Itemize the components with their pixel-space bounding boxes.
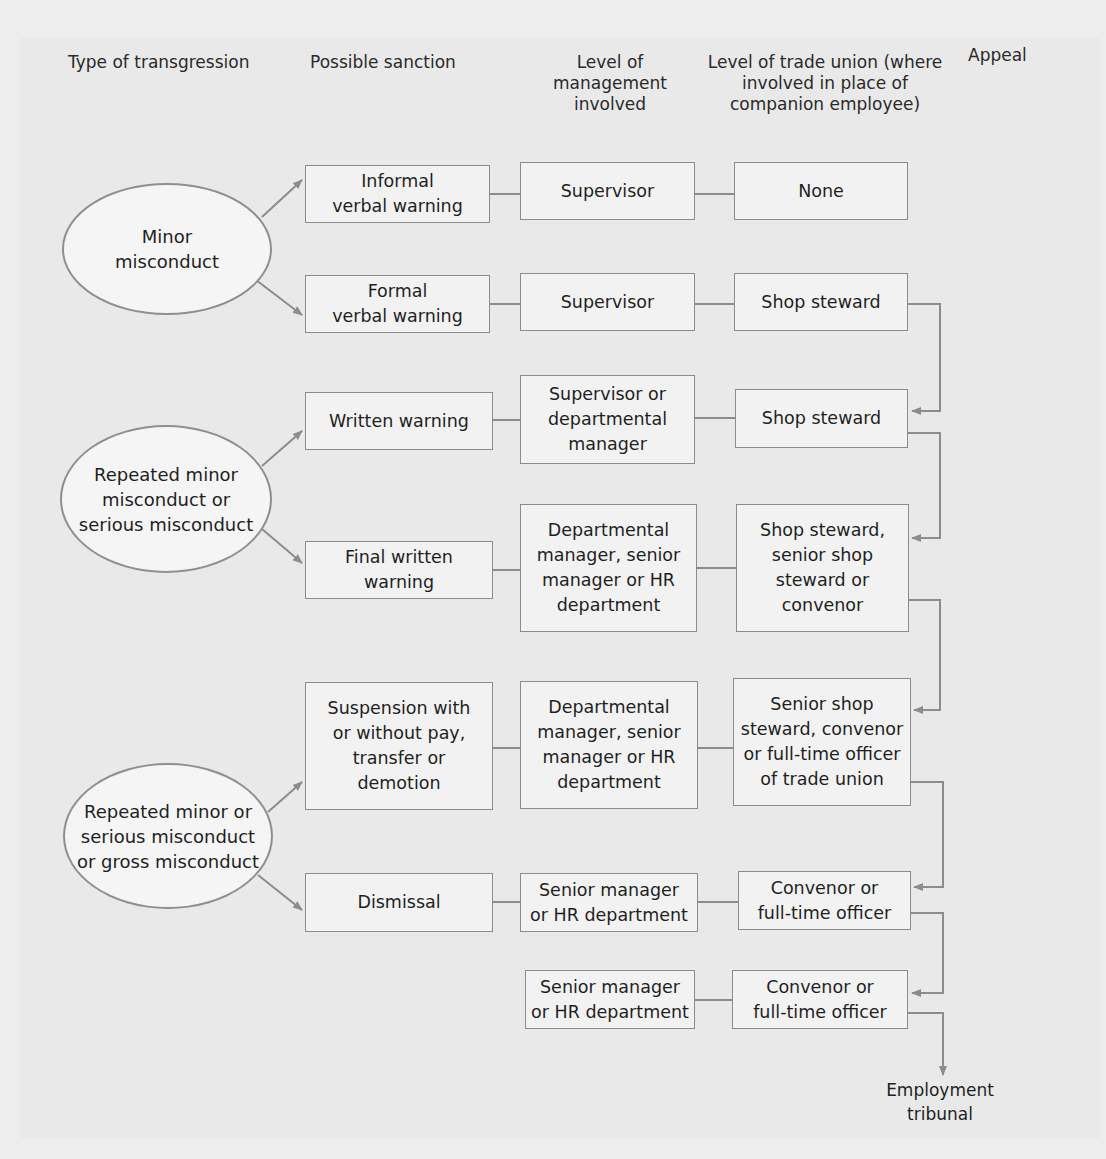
header-appeal: Appeal bbox=[968, 45, 1078, 66]
union-row-3: Shop steward bbox=[735, 389, 908, 448]
header-sanction: Possible sanction bbox=[310, 52, 490, 73]
management-row-1: Supervisor bbox=[520, 162, 695, 220]
management-row-6: Senior manager or HR department bbox=[520, 873, 698, 932]
union-row-1: None bbox=[734, 162, 908, 220]
management-row-4: Departmental manager, senior manager or … bbox=[520, 504, 697, 632]
sanction-written-warning: Written warning bbox=[305, 392, 493, 450]
sanction-final-written-warning: Final written warning bbox=[305, 541, 493, 599]
header-management: Level of management involved bbox=[530, 52, 690, 115]
sanction-informal-verbal-warning: Informal verbal warning bbox=[305, 165, 490, 223]
management-row-3: Supervisor or departmental manager bbox=[520, 375, 695, 464]
union-row-7: Convenor or full-time officer bbox=[732, 970, 908, 1029]
management-row-2: Supervisor bbox=[520, 273, 695, 331]
transgression-minor-misconduct: Minor misconduct bbox=[62, 183, 272, 315]
header-transgression: Type of transgression bbox=[68, 52, 278, 73]
header-union: Level of trade union (where involved in … bbox=[690, 52, 960, 115]
sanction-dismissal: Dismissal bbox=[305, 873, 493, 932]
management-row-7: Senior manager or HR department bbox=[525, 970, 695, 1029]
union-row-4: Shop steward, senior shop steward or con… bbox=[736, 504, 909, 632]
sanction-suspension: Suspension with or without pay, transfer… bbox=[305, 682, 493, 810]
union-row-5: Senior shop steward, convenor or full-ti… bbox=[733, 678, 911, 806]
sanction-formal-verbal-warning: Formal verbal warning bbox=[305, 275, 490, 333]
transgression-repeated-or-serious: Repeated minor misconduct or serious mis… bbox=[60, 425, 272, 573]
employment-tribunal: Employment tribunal bbox=[870, 1078, 1010, 1126]
union-row-6: Convenor or full-time officer bbox=[738, 871, 911, 930]
management-row-5: Departmental manager, senior manager or … bbox=[520, 681, 698, 809]
transgression-gross-misconduct: Repeated minor or serious misconduct or … bbox=[63, 763, 273, 909]
union-row-2: Shop steward bbox=[734, 273, 908, 331]
